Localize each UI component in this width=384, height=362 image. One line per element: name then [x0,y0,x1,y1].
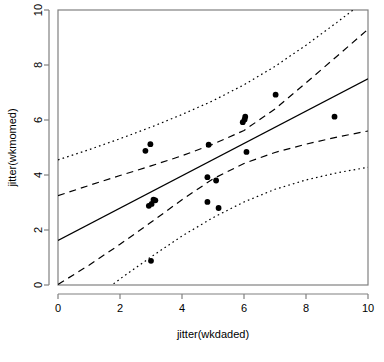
x-tick-label: 2 [117,302,123,314]
scatter-plot-figure: 0246810 0246810 jitter(wkdaded)jitter(wk… [0,0,384,362]
y-tick-label: 4 [32,172,44,178]
data-point [242,114,248,120]
data-point [213,178,219,184]
y-tick-label: 0 [32,282,44,288]
data-point [205,199,211,205]
data-point [273,92,279,98]
data-point [143,148,149,154]
data-point [205,174,211,180]
x-tick-label: 8 [303,302,309,314]
data-point [216,205,222,211]
plot-canvas: 0246810 0246810 jitter(wkdaded)jitter(wk… [0,0,384,362]
x-tick-label: 0 [55,302,61,314]
data-point [148,258,154,264]
y-tick-label: 10 [32,4,44,16]
data-point [206,142,212,148]
x-tick-label: 6 [241,302,247,314]
x-axis-title: jitter(wkdaded) [176,328,249,340]
data-point [152,197,158,203]
data-point [244,149,250,155]
y-tick-label: 6 [32,117,44,123]
y-axis-title: jitter(wkmomed) [6,108,18,187]
x-tick-label: 10 [362,302,374,314]
y-tick-label: 8 [32,62,44,68]
data-point [147,141,153,147]
data-point [332,114,338,120]
y-tick-label: 2 [32,227,44,233]
x-tick-label: 4 [179,302,185,314]
